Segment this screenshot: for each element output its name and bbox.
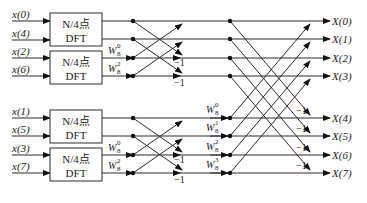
dft-block-label: DFT <box>66 129 87 141</box>
fft-butterfly-diagram: x(0) x(4) x(2) x(6) x(1) x(5) x(3) x(7) … <box>0 0 367 203</box>
minus-one-label: −1 <box>296 123 307 134</box>
output-label: X(2) <box>331 52 352 65</box>
input-labels: x(0) x(4) x(2) x(6) x(1) x(5) x(3) x(7) <box>11 8 30 173</box>
output-label: X(7) <box>331 167 352 180</box>
stage2-nodes <box>228 19 232 175</box>
twiddle-subscript: 8 <box>117 50 121 58</box>
input-label: x(5) <box>11 123 30 136</box>
input-label: x(1) <box>11 105 30 118</box>
output-label: X(1) <box>331 33 352 46</box>
twiddle-exponent: 1 <box>215 119 219 127</box>
output-label: X(0) <box>331 15 352 28</box>
stage1-nodes <box>131 19 135 175</box>
twiddle-exponent: 2 <box>215 138 219 146</box>
minus-one-label: −1 <box>296 160 307 171</box>
output-label: X(4) <box>331 112 352 125</box>
output-label: X(5) <box>331 130 352 143</box>
dft-block-title: N/4点 <box>62 18 90 30</box>
output-labels: X(0) X(1) X(2) X(3) X(4) X(5) X(6) X(7) <box>331 15 352 180</box>
twiddle-exponent: 2 <box>117 60 121 68</box>
output-label: X(3) <box>331 70 352 83</box>
dft-block-title: N/4点 <box>62 153 90 165</box>
dft-block-label: DFT <box>66 167 87 179</box>
twiddle-subscript: 8 <box>215 146 219 154</box>
output-label: X(6) <box>331 149 352 162</box>
twiddle-exponent: 3 <box>215 156 219 164</box>
minus-one-label: −1 <box>296 105 307 116</box>
dft-block-label: DFT <box>66 32 87 44</box>
minus-one-label: −1 <box>174 174 185 185</box>
twiddle-exponent: 2 <box>117 157 121 165</box>
twiddle-subscript: 8 <box>117 165 121 173</box>
input-label: x(7) <box>11 160 30 173</box>
dft-block-title: N/4点 <box>62 56 90 68</box>
dft-block-4: N/4点 DFT <box>50 148 102 181</box>
minus-one-label: −1 <box>174 154 185 165</box>
twiddle-subscript: 8 <box>117 68 121 76</box>
twiddle-subscript: 8 <box>215 127 219 135</box>
dft-block-title: N/4点 <box>62 115 90 127</box>
twiddle-exponent: 0 <box>215 101 219 109</box>
minus-one-label: −1 <box>174 77 185 88</box>
stage2-twiddle-labels: W 0 8 W 1 8 W 2 8 W 3 8 <box>206 101 228 173</box>
twiddle-subscript: 8 <box>117 147 121 155</box>
input-label: x(2) <box>11 45 30 58</box>
input-label: x(3) <box>11 142 30 155</box>
twiddle-exponent: 0 <box>117 139 121 147</box>
dft-block-label: DFT <box>66 70 87 82</box>
minus-one-label: −1 <box>174 57 185 68</box>
stage1-twiddle-labels: W 0 8 W 2 8 W 0 8 W 2 8 <box>108 42 121 173</box>
twiddle-exponent: 0 <box>117 42 121 50</box>
twiddle-subscript: 8 <box>215 164 219 172</box>
minus-one-label: −1 <box>296 142 307 153</box>
input-label: x(4) <box>11 27 30 40</box>
dft-block-1: N/4点 DFT <box>50 13 102 46</box>
dft-block-3: N/4点 DFT <box>50 110 102 143</box>
dft-block-2: N/4点 DFT <box>50 51 102 84</box>
twiddle-subscript: 8 <box>215 109 219 117</box>
input-label: x(0) <box>11 8 30 21</box>
input-label: x(6) <box>11 63 30 76</box>
